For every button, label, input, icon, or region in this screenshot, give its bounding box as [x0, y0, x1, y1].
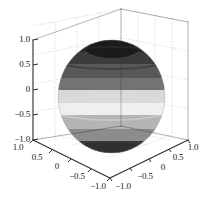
y-tick-label-5: −1.0	[90, 182, 106, 191]
x-tick-label-5: 1.0	[188, 143, 199, 152]
z-tick-label-2: 0.5	[19, 60, 30, 69]
x-tick-label-3: 0	[161, 163, 165, 172]
z-axis-ticks	[33, 39, 38, 140]
sphere-surface	[50, 38, 174, 174]
z-tick-label-3: 0	[26, 85, 30, 94]
z-tick-label-4: −0.5	[14, 110, 30, 119]
x-tick-label-1: −1.0	[115, 182, 131, 191]
y-tick-label-2: 0.5	[32, 153, 43, 162]
figure-3d-sphere-plot: 1.0 0.5 0 −0.5 −1.0 1.0 0.5 0 −0.5 −1.0 …	[0, 0, 202, 204]
z-tick-label-1: 1.0	[19, 35, 30, 44]
y-tick-label-3: 0	[55, 162, 59, 171]
y-tick-label-4: −0.5	[69, 172, 85, 181]
x-tick-label-4: 0.5	[173, 153, 184, 162]
y-tick-label-1: 1.0	[13, 143, 24, 152]
plot-canvas	[0, 0, 202, 204]
x-tick-label-2: −0.5	[137, 172, 153, 181]
